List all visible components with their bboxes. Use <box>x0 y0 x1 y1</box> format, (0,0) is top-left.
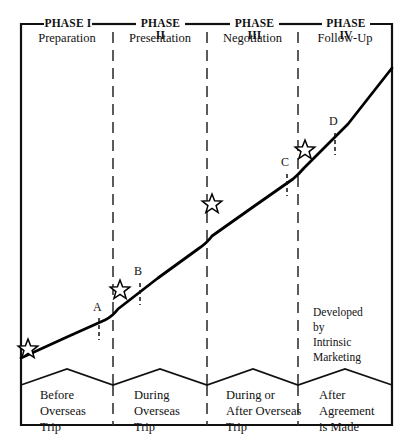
bottom-label-line: After Overseas <box>226 403 301 419</box>
bottom-label-line: Trip <box>40 419 86 435</box>
bottom-label-line: During or <box>226 387 301 403</box>
star-3 <box>202 194 222 213</box>
phase-subtitle: Negotiation <box>207 31 298 46</box>
phase-diagram: PHASE I Preparation PHASE II Presentatio… <box>0 0 417 445</box>
phase-subtitle-phase-2: Presentation <box>113 31 207 46</box>
phase-subtitle: Follow-Up <box>298 31 392 46</box>
bottom-label-line: Overseas <box>40 403 86 419</box>
bottom-label-line: Before <box>40 387 86 403</box>
marker-label-A: A <box>93 300 102 315</box>
diagram-canvas <box>0 0 417 445</box>
bottom-label-line: is Made <box>319 419 375 435</box>
bottom-label-line: During <box>134 387 180 403</box>
phase-subtitle-phase-3: Negotiation <box>207 31 298 46</box>
bottom-label-phase-3: During or After Overseas Trip <box>226 387 301 435</box>
bottom-label-line: Trip <box>134 419 180 435</box>
phase-dividers <box>113 32 298 385</box>
marker-ticks <box>99 133 335 340</box>
credit-line-3: Intrinsic <box>313 335 363 350</box>
bottom-label-phase-1: Before Overseas Trip <box>40 387 86 435</box>
bottom-label-phase-2: During Overseas Trip <box>134 387 180 435</box>
phase-subtitle-phase-4: Follow-Up <box>298 31 392 46</box>
bottom-label-phase-4: After Agreement is Made <box>319 387 375 435</box>
phase-subtitle: Preparation <box>21 31 113 46</box>
phase-header-phase-1: PHASE I <box>44 17 92 29</box>
phase-subtitle-phase-1: Preparation <box>21 31 113 46</box>
phase-title: PHASE I <box>44 17 92 29</box>
marker-label-D: D <box>329 114 338 129</box>
marker-label-B: B <box>134 264 142 279</box>
credit-line-1: Developed <box>313 305 363 320</box>
marker-label-C: C <box>281 155 289 170</box>
bottom-label-line: Overseas <box>134 403 180 419</box>
credit-block: Developed by Intrinsic Marketing <box>313 305 363 365</box>
credit-line-2: by <box>313 320 363 335</box>
bottom-label-line: Trip <box>226 419 301 435</box>
bottom-label-line: After <box>319 387 375 403</box>
star-markers <box>18 140 315 358</box>
bottom-label-line: Agreement <box>319 403 375 419</box>
phase-subtitle: Presentation <box>113 31 207 46</box>
star-2 <box>110 280 130 299</box>
credit-line-4: Marketing <box>313 350 363 365</box>
